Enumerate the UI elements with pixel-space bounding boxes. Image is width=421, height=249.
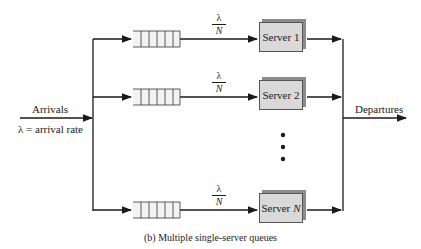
arrivals-label: Arrivals	[32, 104, 68, 115]
queue-1	[133, 31, 180, 47]
server-index: N	[293, 202, 300, 214]
server-2: Server 2	[259, 80, 303, 110]
server-n: Server N	[259, 193, 303, 223]
departures-label: Departures	[355, 104, 403, 115]
figure-caption: (b) Multiple single-server queues	[0, 232, 421, 243]
rate-fraction-n: λ N	[212, 184, 226, 207]
arrival-rate-label: λ = arrival rate	[18, 124, 83, 135]
fraction-numerator: λ	[212, 71, 226, 83]
queue-2	[133, 89, 180, 105]
server-index: 2	[294, 89, 300, 101]
fraction-numerator: λ	[212, 184, 226, 196]
fraction-denominator: N	[212, 25, 226, 36]
fraction-denominator: N	[212, 196, 226, 207]
server-1: Server 1	[259, 22, 303, 52]
ellipsis-dots	[281, 133, 285, 161]
fraction-numerator: λ	[212, 13, 226, 25]
server-label: Server	[261, 202, 290, 214]
rate-fraction-1: λ N	[212, 13, 226, 36]
server-index: 1	[294, 31, 300, 43]
server-label: Server	[262, 89, 291, 101]
rate-fraction-2: λ N	[212, 71, 226, 94]
server-label: Server	[262, 31, 291, 43]
queue-n	[133, 202, 180, 218]
fraction-denominator: N	[212, 83, 226, 94]
